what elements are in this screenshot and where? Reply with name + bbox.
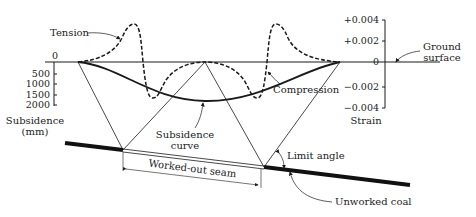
subsidence-tick-2000: 2000 [26, 99, 50, 110]
subsidence-curve [78, 62, 340, 101]
strain-tick-p002: +0.002 [344, 35, 379, 46]
strain-tick-m002: −0.002 [344, 81, 379, 92]
subsidence-curve-label: Subsidence [156, 129, 214, 140]
subsidence-axis-unit: (mm) [22, 126, 49, 137]
strain-axis: +0.004 +0.002 0 −0.002 −0.004 Strain [344, 14, 385, 126]
ground-surface-label-2: surface [423, 52, 461, 63]
subsidence-diagram: 0 500 1000 1500 2000 Subsidence (mm) +0.… [0, 0, 476, 217]
strain-tick-0: 0 [373, 56, 379, 67]
strain-axis-label: Strain [350, 115, 382, 126]
subsidence-axis: 0 500 1000 1500 2000 Subsidence (mm) [6, 50, 64, 137]
subsidence-curve-label-2: curve [171, 140, 199, 151]
limit-line-right-inner [205, 62, 264, 167]
tension-label: Tension [50, 27, 90, 38]
limit-line-left-outer [78, 62, 123, 150]
limit-angle-arc [279, 153, 284, 168]
limit-angle-label: Limit angle [287, 150, 345, 161]
unworked-coal-left [65, 143, 123, 150]
compression-label: Compression [273, 84, 340, 95]
ground-surface-label: Ground [423, 41, 462, 52]
subsidence-tick-0: 0 [52, 50, 58, 61]
unworked-coal-label: Unworked coal [335, 196, 412, 207]
subsidence-tick-1000: 1000 [26, 78, 50, 89]
strain-tick-p004: +0.004 [344, 14, 379, 25]
strain-tick-m004: −0.004 [344, 102, 379, 113]
subsidence-axis-label: Subsidence [6, 115, 64, 126]
unworked-coal-right [264, 167, 410, 185]
